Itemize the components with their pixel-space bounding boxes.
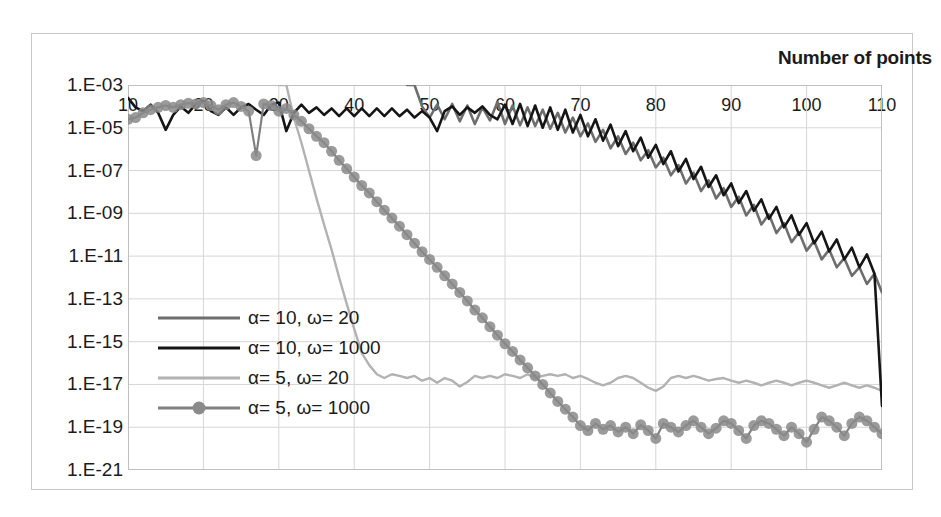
legend-swatch [158,341,240,355]
y-axis-tick-label: 1.E-11 [68,245,123,267]
legend-marker-icon [193,402,206,415]
series-line [407,85,882,292]
y-axis-tick-label: 1.E-07 [67,160,123,182]
legend-line-icon [158,317,240,320]
legend-item[interactable]: α= 10, ω= 1000 [158,333,458,363]
legend-item[interactable]: α= 10, ω= 20 [158,303,458,333]
legend-swatch [158,401,240,415]
y-axis-tick-label: 1.E-17 [67,373,123,395]
y-axis-tick-labels: 1.E-031.E-051.E-071.E-091.E-111.E-131.E-… [31,85,123,470]
legend-label: α= 5, ω= 1000 [248,397,370,419]
y-axis-tick-label: 1.E-03 [67,74,123,96]
y-axis-tick-label: 1.E-15 [67,331,123,353]
legend-label: α= 10, ω= 20 [248,307,359,329]
chart-title: Number of points [778,47,932,69]
legend-item[interactable]: α= 5, ω= 1000 [158,393,458,423]
y-axis-tick-label: 1.E-21 [67,459,123,481]
legend-line-icon [158,377,240,380]
legend-swatch [158,371,240,385]
y-axis-tick-label: 1.E-09 [67,202,123,224]
legend-line-icon [158,347,240,350]
y-axis-tick-label: 1.E-05 [67,117,123,139]
legend-label: α= 5, ω= 20 [248,367,349,389]
legend-label: α= 10, ω= 1000 [248,337,381,359]
y-axis-tick-label: 1.E-13 [67,288,123,310]
y-axis-tick-label: 1.E-19 [67,416,123,438]
legend-item[interactable]: α= 5, ω= 20 [158,363,458,393]
chart-screenshot: Number of points 1.E-031.E-051.E-071.E-0… [0,0,941,517]
legend-swatch [158,311,240,325]
chart-legend: α= 10, ω= 20α= 10, ω= 1000α= 5, ω= 20α= … [158,303,458,423]
